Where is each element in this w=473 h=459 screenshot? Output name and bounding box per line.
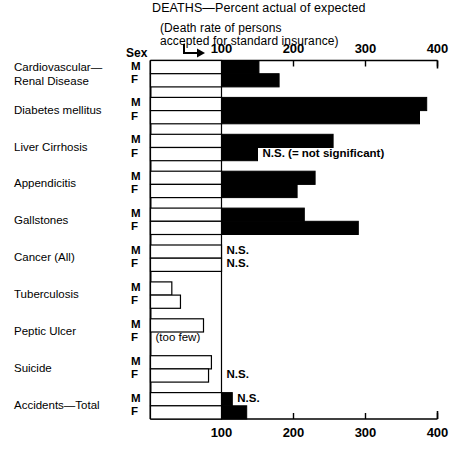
sex-label-f-row-8: F [131,368,138,380]
sex-label-m-row-7: M [131,318,141,330]
sex-label-f-row-3: F [131,183,138,195]
hook-arrow-right-icon [181,43,211,59]
axis-tick-label-bottom-400: 400 [422,425,454,440]
sex-label-m-row-5: M [131,244,141,256]
sex-label-f-row-2: F [131,147,138,159]
axis-tick-label-top-300: 300 [350,41,382,56]
sex-label-f-row-4: F [131,220,138,232]
annotation-m-row-5: N.S. [227,244,249,256]
sex-label-m-row-8: M [131,355,141,367]
sex-label-f-row-1: F [131,110,138,122]
sex-label-m-row-3: M [131,170,141,182]
axis-tick-label-top-400: 400 [422,41,454,56]
bar-f-row-0 [151,74,280,87]
category-label-3: Appendicitis [14,177,118,189]
bar-f-row-6 [151,295,181,308]
category-label-6: Tuberculosis [14,288,118,300]
bar-f-row-3 [151,184,298,197]
sex-label-m-row-1: M [131,96,141,108]
bar-f-row-9 [151,406,247,419]
sex-label-m-row-4: M [131,207,141,219]
bar-m-row-3 [151,171,316,184]
bar-f-row-4 [151,221,359,234]
chart-root: DEATHS—Percent actual of expected (Death… [0,0,473,459]
annotation-f-row-8: N.S. [227,368,249,380]
category-label-0: Cardiovascular—Renal Disease [14,60,118,88]
bar-m-row-8 [151,356,212,369]
sex-label-m-row-2: M [131,133,141,145]
bar-m-row-1 [151,97,427,110]
sex-label-f-row-6: F [131,294,138,306]
sex-label-f-row-9: F [131,405,138,417]
category-label-1: Diabetes mellitus [14,104,118,116]
category-label-8: Suicide [14,362,118,374]
sex-label-m-row-9: M [131,392,141,404]
axis-tick-label-bottom-200: 200 [278,425,310,440]
annotation-f-row-5: N.S. [227,257,249,269]
sex-label-f-row-7: F [131,331,138,343]
category-label-7: Peptic Ulcer [14,325,118,337]
category-label-2: Liver Cirrhosis [14,141,118,153]
bar-f-row-1 [151,111,420,124]
bar-m-row-4 [151,208,305,221]
bar-f-row-2 [151,148,258,161]
axis-tick-label-bottom-100: 100 [206,425,238,440]
axis-tick-label-bottom-300: 300 [350,425,382,440]
bar-f-row-8 [151,369,209,382]
sex-label-f-row-5: F [131,257,138,269]
category-label-9: Accidents—Total [14,399,118,411]
bar-f-row-5 [151,258,222,271]
bar-m-row-0 [151,61,259,74]
category-label-line2: Renal Disease [14,74,118,88]
annotation-f-row-2: N.S. (= not significant) [263,147,385,159]
annotation-m-row-9: N.S. [237,392,259,404]
category-label-line1: Cardiovascular— [14,60,118,74]
bar-m-row-9 [151,393,233,406]
axis-tick-label-top-200: 200 [278,41,310,56]
category-label-4: Gallstones [14,214,118,226]
sex-label-f-row-0: F [131,73,138,85]
sex-label-m-row-0: M [131,60,141,72]
annotation-f-row-7: (too few) [156,331,201,343]
bar-m-row-5 [151,245,222,258]
bar-m-row-6 [151,282,172,295]
category-label-5: Cancer (All) [14,251,118,263]
sex-label-m-row-6: M [131,281,141,293]
